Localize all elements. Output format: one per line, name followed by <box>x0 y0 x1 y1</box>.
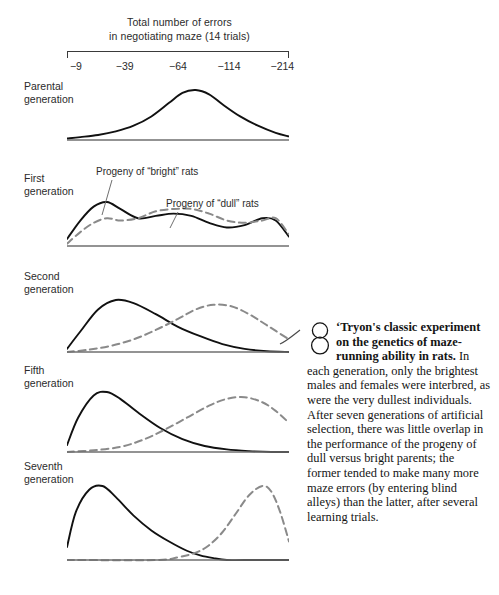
axis-tick-label-0: −9 <box>70 60 82 72</box>
panel-fifth-generation <box>67 388 289 454</box>
caption-body: In each generation, only the brightest m… <box>307 349 490 524</box>
curves-second-generation <box>67 296 289 354</box>
gen-label-second: Second generation <box>24 270 104 296</box>
axis-scale-bar <box>67 51 289 58</box>
gen-label-line1: First <box>24 172 104 185</box>
panel-parental-generation <box>67 86 289 142</box>
curve-dull <box>67 305 289 352</box>
figure-root: Total number of errors in negotiating ma… <box>0 0 499 595</box>
gen-label-first: First generation <box>24 172 104 198</box>
axis-tick-label-3: −114 <box>218 60 241 72</box>
axis-title-line2: in negotiating maze (14 trials) <box>67 30 292 44</box>
curve-bright <box>67 90 289 139</box>
curve-bright <box>67 300 289 352</box>
gen-label-line1: Seventh <box>24 460 104 473</box>
gen-label-line2: generation <box>24 283 104 296</box>
axis-tick-label-1: −39 <box>116 60 134 72</box>
callout-dull-label: Progeny of “dull” rats <box>166 198 259 209</box>
curves-fifth-generation <box>67 388 289 454</box>
curve-bright <box>67 485 289 560</box>
figure-number-8-icon <box>307 321 333 355</box>
gen-label-fifth: Fifth generation <box>24 364 104 390</box>
curves-seventh-generation <box>67 482 289 562</box>
panel-seventh-generation <box>67 482 289 562</box>
curves-parental-generation <box>67 86 289 142</box>
panel-second-generation <box>67 296 289 354</box>
curve-dull <box>67 397 289 452</box>
axis-title-line1: Total number of errors <box>67 16 292 30</box>
axis-tick-label-2: −64 <box>169 60 187 72</box>
callout-bright-label: Progeny of “bright” rats <box>96 166 198 177</box>
curve-dull <box>67 486 289 560</box>
axis-tick-labels: −9−39−64−114−214 <box>67 60 289 74</box>
gen-label-line1: Fifth <box>24 364 104 377</box>
gen-label-line1: Second <box>24 270 104 283</box>
axis-title: Total number of errors in negotiating ma… <box>67 16 292 43</box>
gen-label-line2: generation <box>24 185 104 198</box>
figure-caption: ‘Tryon's classic experiment on the genet… <box>307 320 491 524</box>
axis-tick-label-4: −214 <box>271 60 295 72</box>
